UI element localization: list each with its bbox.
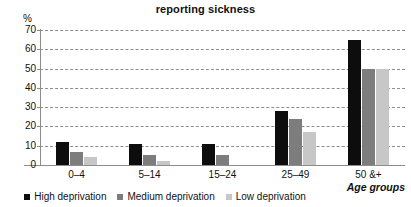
- bar-low: [303, 132, 316, 165]
- y-axis-tick-label: 40: [16, 83, 36, 93]
- legend-item: High deprivation: [24, 191, 106, 202]
- bar-group: [275, 30, 316, 165]
- legend-item-label: Medium deprivation: [127, 191, 214, 202]
- y-axis-tick-label: 50: [16, 64, 36, 74]
- x-axis-tick-label: 25–49: [261, 169, 331, 180]
- y-axis-tick-label: 70: [16, 25, 36, 35]
- bar-group: [202, 30, 243, 165]
- y-axis-unit-label: %: [23, 13, 32, 24]
- y-axis-tick-label: 20: [16, 121, 36, 131]
- y-axis-tick-label: 10: [16, 141, 36, 151]
- legend-swatch-icon: [117, 194, 123, 200]
- bar-low: [157, 161, 170, 165]
- bar-high: [202, 144, 215, 165]
- legend-item: Medium deprivation: [117, 191, 214, 202]
- bar-group: [129, 30, 170, 165]
- plot-area: [40, 30, 405, 165]
- y-axis-tick-label: 0: [16, 160, 36, 170]
- bar-chart: reporting sickness % 010203040506070 0–4…: [0, 0, 411, 207]
- legend-item-label: Low deprivation: [236, 191, 306, 202]
- legend-item-label: High deprivation: [34, 191, 106, 202]
- legend-swatch-icon: [24, 194, 30, 200]
- y-axis-tick-mark: [37, 165, 41, 166]
- bar-low: [84, 157, 97, 165]
- x-axis-title: Age groups: [347, 181, 405, 193]
- bar-high: [348, 40, 361, 165]
- bar-high: [129, 144, 142, 165]
- bar-group: [56, 30, 97, 165]
- bar-medium: [216, 155, 229, 165]
- bar-medium: [289, 119, 302, 165]
- bar-high: [275, 111, 288, 165]
- bar-medium: [70, 152, 83, 166]
- legend-item: Low deprivation: [226, 191, 306, 202]
- y-axis-tick-label: 60: [16, 44, 36, 54]
- x-axis-line: [24, 165, 405, 166]
- x-axis-tick-label: 15–24: [188, 169, 258, 180]
- chart-title: reporting sickness: [0, 3, 411, 15]
- bar-low: [376, 69, 389, 165]
- bar-high: [56, 142, 69, 165]
- bar-group: [348, 30, 389, 165]
- x-axis-tick-label: 0–4: [42, 169, 112, 180]
- legend-swatch-icon: [226, 194, 232, 200]
- chart-legend: High deprivationMedium deprivationLow de…: [0, 191, 330, 202]
- bar-medium: [362, 69, 375, 165]
- x-axis-tick-label: 50 &+: [334, 169, 404, 180]
- y-axis-tick-label: 30: [16, 102, 36, 112]
- x-axis-tick-label: 5–14: [115, 169, 185, 180]
- bar-medium: [143, 155, 156, 165]
